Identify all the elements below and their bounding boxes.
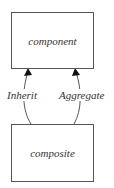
composite-node: composite <box>11 124 94 182</box>
component-label: component <box>28 35 76 47</box>
inherit-arrowhead-icon <box>24 68 32 76</box>
composite-label: composite <box>30 147 75 159</box>
component-node: component <box>11 12 94 69</box>
inherit-edge-label: Inherit <box>7 89 37 101</box>
aggregate-edge-label: Aggregate <box>59 89 104 101</box>
aggregate-arrowhead-icon <box>72 68 80 76</box>
